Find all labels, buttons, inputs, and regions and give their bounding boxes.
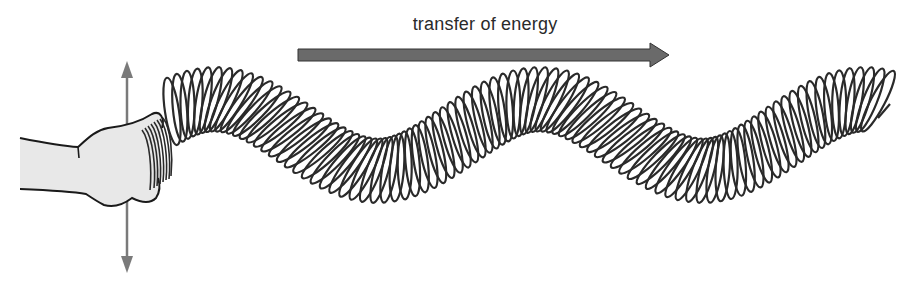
energy-arrow-icon	[298, 43, 669, 67]
hand-icon	[20, 113, 172, 206]
slinky-spring	[160, 65, 900, 204]
wave-diagram	[0, 0, 902, 289]
